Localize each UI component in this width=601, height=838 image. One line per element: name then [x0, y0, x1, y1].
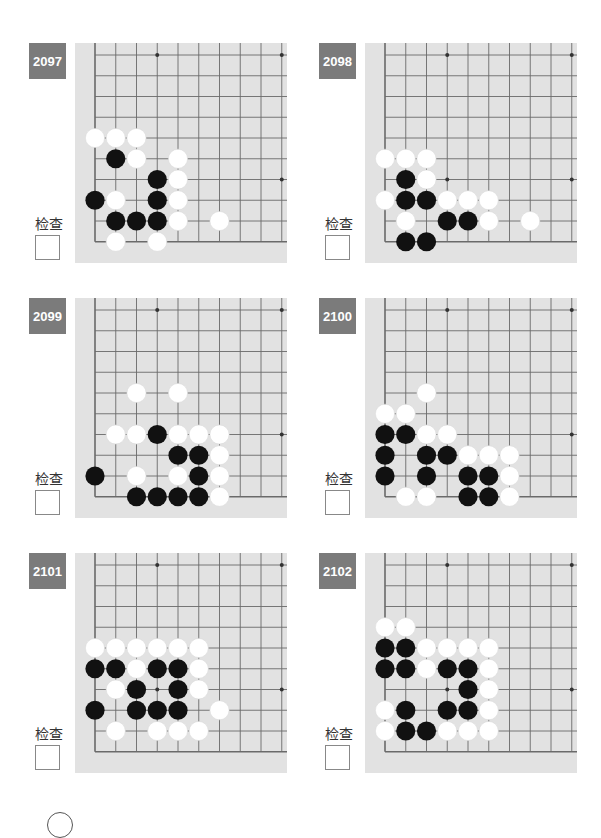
black-stone — [168, 659, 187, 678]
black-stone — [148, 211, 167, 230]
black-stone — [458, 466, 477, 485]
white-stone — [106, 128, 125, 147]
white-stone — [438, 721, 457, 740]
white-stone — [396, 487, 415, 506]
problem-number: 2097 — [29, 43, 66, 79]
black-stone — [168, 446, 187, 465]
go-board[interactable] — [75, 43, 287, 263]
check-label: 检查 — [35, 723, 63, 743]
white-stone — [396, 618, 415, 637]
black-stone — [479, 466, 498, 485]
white-stone — [189, 638, 208, 657]
white-stone — [500, 466, 519, 485]
black-stone — [189, 446, 208, 465]
check-label: 检查 — [35, 468, 63, 488]
white-stone — [479, 446, 498, 465]
black-stone — [417, 191, 436, 210]
black-stone — [127, 487, 146, 506]
check-checkbox[interactable] — [325, 235, 350, 260]
black-stone — [396, 701, 415, 720]
problem-number: 2102 — [319, 553, 356, 589]
black-stone — [458, 211, 477, 230]
white-stone — [189, 680, 208, 699]
check-label: 检查 — [325, 723, 353, 743]
black-stone — [168, 487, 187, 506]
go-board[interactable] — [365, 298, 577, 518]
black-stone — [85, 659, 104, 678]
go-board[interactable] — [365, 43, 577, 263]
white-stone — [458, 446, 477, 465]
white-stone — [438, 425, 457, 444]
black-stone — [396, 659, 415, 678]
black-stone — [148, 170, 167, 189]
white-stone — [210, 446, 229, 465]
white-stone — [85, 638, 104, 657]
white-stone — [458, 638, 477, 657]
black-stone — [396, 232, 415, 251]
page-number-circle — [47, 812, 73, 838]
white-stone — [417, 659, 436, 678]
black-stone — [396, 721, 415, 740]
white-stone — [479, 701, 498, 720]
white-stone — [148, 638, 167, 657]
black-stone — [189, 466, 208, 485]
black-stone — [148, 425, 167, 444]
black-stone — [106, 659, 125, 678]
black-stone — [417, 232, 436, 251]
check-checkbox[interactable] — [325, 745, 350, 770]
black-stone — [189, 487, 208, 506]
white-stone — [375, 721, 394, 740]
check-checkbox[interactable] — [325, 490, 350, 515]
white-stone — [106, 425, 125, 444]
check-checkbox[interactable] — [35, 235, 60, 260]
black-stone — [106, 149, 125, 168]
black-stone — [375, 446, 394, 465]
go-board[interactable] — [365, 553, 577, 773]
white-stone — [106, 721, 125, 740]
black-stone — [168, 701, 187, 720]
white-stone — [127, 149, 146, 168]
black-stone — [106, 211, 125, 230]
white-stone — [438, 191, 457, 210]
white-stone — [85, 128, 104, 147]
black-stone — [438, 659, 457, 678]
black-stone — [417, 721, 436, 740]
black-stone — [375, 659, 394, 678]
white-stone — [168, 211, 187, 230]
black-stone — [148, 659, 167, 678]
check-checkbox[interactable] — [35, 490, 60, 515]
black-stone — [417, 466, 436, 485]
white-stone — [168, 149, 187, 168]
black-stone — [458, 659, 477, 678]
go-board[interactable] — [75, 298, 287, 518]
black-stone — [168, 680, 187, 699]
black-stone — [396, 170, 415, 189]
white-stone — [168, 170, 187, 189]
white-stone — [396, 211, 415, 230]
black-stone — [438, 211, 457, 230]
white-stone — [417, 425, 436, 444]
black-stone — [85, 191, 104, 210]
go-board[interactable] — [75, 553, 287, 773]
white-stone — [396, 149, 415, 168]
black-stone — [148, 191, 167, 210]
white-stone — [189, 659, 208, 678]
white-stone — [127, 638, 146, 657]
problem-2099: 2099 检查 — [29, 298, 319, 520]
white-stone — [106, 680, 125, 699]
white-stone — [500, 487, 519, 506]
check-checkbox[interactable] — [35, 745, 60, 770]
white-stone — [168, 466, 187, 485]
white-stone — [127, 466, 146, 485]
white-stone — [168, 383, 187, 402]
white-stone — [127, 659, 146, 678]
black-stone — [148, 701, 167, 720]
black-stone — [396, 191, 415, 210]
black-stone — [438, 701, 457, 720]
white-stone — [375, 404, 394, 423]
white-stone — [417, 487, 436, 506]
problem-number: 2099 — [29, 298, 66, 334]
problem-2102: 2102 检查 — [319, 553, 601, 775]
problem-number: 2098 — [319, 43, 356, 79]
white-stone — [458, 721, 477, 740]
